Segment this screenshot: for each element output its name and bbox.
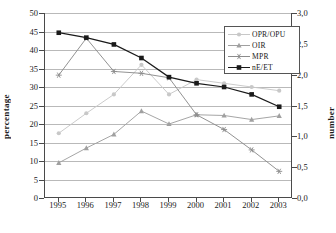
data-point-circle-plus — [237, 32, 241, 36]
y-tick-label-left: 45 — [16, 27, 38, 37]
y-tick-label-right: 0,5 — [297, 162, 321, 172]
legend-label: OPR/OPU — [252, 30, 285, 39]
data-point-square — [112, 42, 117, 47]
tickmark — [39, 198, 44, 199]
y-tick-label-left: 40 — [16, 45, 38, 55]
tickmark — [223, 198, 224, 202]
y-tick-label-left: 0 — [16, 193, 38, 203]
tickmark — [292, 198, 297, 199]
y-tick-label-right: 0,0 — [297, 193, 321, 203]
y-tick-label-left: 10 — [16, 156, 38, 166]
legend-item-oir: OIR — [225, 40, 299, 51]
tickmark — [85, 198, 86, 202]
tickmark — [251, 198, 252, 202]
y-tick-label-left: 25 — [16, 101, 38, 111]
data-point-triangle — [236, 43, 241, 48]
legend-item-ne-et: nE/ET — [225, 62, 299, 73]
y-tick-label-right: 2,0 — [297, 70, 321, 80]
data-point-circle-plus — [57, 131, 61, 135]
legend-item-opr-opu: OPR/OPU — [225, 29, 299, 40]
data-point-asterisk — [236, 54, 242, 59]
data-point-circle-plus — [112, 92, 116, 96]
legend-label: MPR — [252, 52, 269, 61]
y-tick-label-left: 50 — [16, 8, 38, 18]
y-tick-label-right: 2,5 — [297, 39, 321, 49]
data-point-circle-plus — [167, 92, 171, 96]
chart-figure: percentage number 05101520253035404550 0… — [0, 0, 336, 233]
tickmark — [113, 198, 114, 202]
data-point-square — [222, 85, 227, 90]
data-point-circle-plus — [84, 111, 88, 115]
data-point-asterisk — [138, 71, 144, 76]
data-point-circle-plus — [277, 89, 281, 93]
legend-marker-circle-plus-icon — [228, 29, 250, 40]
tickmark — [196, 198, 197, 202]
chart-legend: OPR/OPUOIRMPRnE/ET — [224, 26, 300, 74]
y-tick-label-right: 1,0 — [297, 131, 321, 141]
legend-label: nE/ET — [252, 63, 273, 72]
tickmark — [58, 198, 59, 202]
data-point-square — [277, 104, 282, 109]
data-point-circle-plus — [139, 63, 143, 67]
data-point-triangle — [56, 160, 61, 165]
data-point-square — [56, 30, 61, 35]
data-point-circle-plus — [250, 85, 254, 89]
data-point-square — [237, 65, 242, 70]
data-point-square — [249, 92, 254, 97]
data-point-square — [194, 81, 199, 86]
data-point-triangle — [277, 113, 282, 118]
data-point-triangle — [139, 108, 144, 113]
y-tick-label-left: 35 — [16, 64, 38, 74]
data-point-triangle — [84, 145, 89, 150]
y-tick-label-right: 3,0 — [297, 8, 321, 18]
legend-item-mpr: MPR — [225, 51, 299, 62]
y-tick-label-left: 5 — [16, 175, 38, 185]
data-point-square — [139, 56, 144, 61]
data-point-square — [84, 35, 89, 40]
legend-marker-square-icon — [228, 62, 250, 73]
data-point-asterisk — [56, 73, 62, 78]
y-tick-label-right: 1,5 — [297, 101, 321, 111]
series-oir — [56, 108, 282, 165]
legend-marker-triangle-icon — [228, 40, 250, 51]
y-tick-label-left: 30 — [16, 82, 38, 92]
y-axis-left-title: percentage — [1, 62, 11, 172]
legend-label: OIR — [252, 41, 266, 50]
tickmark — [278, 198, 279, 202]
tickmark — [140, 198, 141, 202]
legend-marker-asterisk-icon — [228, 51, 250, 62]
y-tick-label-left: 20 — [16, 119, 38, 129]
data-point-square — [167, 75, 172, 80]
y-tick-label-left: 15 — [16, 138, 38, 148]
tickmark — [168, 198, 169, 202]
y-axis-right-title: number — [326, 78, 336, 168]
